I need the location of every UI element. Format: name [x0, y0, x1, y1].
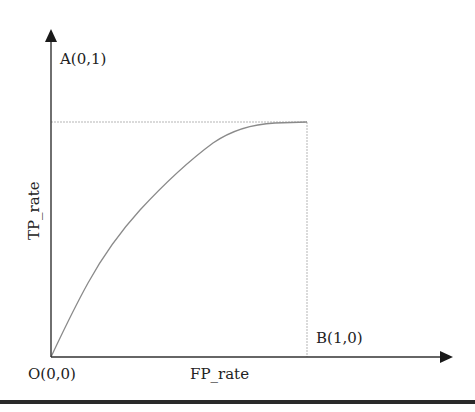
- roc-curve: [51, 122, 307, 357]
- y-axis-arrow-icon: [45, 29, 57, 42]
- origin-label: O(0,0): [28, 367, 76, 382]
- x-axis-arrow-icon: [440, 351, 453, 363]
- y-axis-label: TP_rate: [27, 181, 42, 240]
- point-a-label: A(0,1): [60, 52, 106, 67]
- point-b-label: B(1,0): [316, 331, 363, 346]
- bottom-rule-divider: [0, 400, 475, 404]
- x-axis-label: FP_rate: [190, 367, 249, 382]
